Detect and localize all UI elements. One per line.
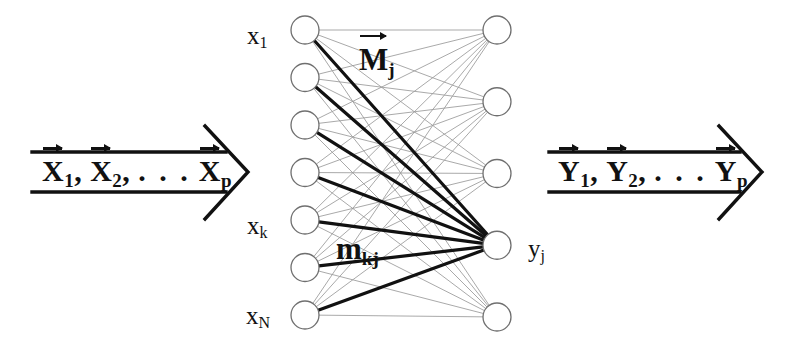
input-node[interactable] <box>291 16 319 44</box>
mesh-edge <box>319 271 484 314</box>
output-arrow-sub-3: p <box>737 170 748 191</box>
input-node-label-xk-text: x <box>247 212 260 239</box>
input-node[interactable] <box>291 254 319 282</box>
input-node[interactable] <box>291 301 319 329</box>
output-arrow-sep-1: , <box>590 154 598 187</box>
output-node-label-yj-sub: j <box>541 247 545 264</box>
input-arrow-symbol-3: X <box>199 154 221 187</box>
weight-vector-subscript: j <box>388 59 394 80</box>
vector-arrow-accent-Y2 <box>607 147 626 150</box>
input-arrow-sub-1: 1 <box>64 170 74 191</box>
input-node[interactable] <box>291 111 319 139</box>
output-node-label-yj-text: y <box>528 235 541 262</box>
output-node[interactable] <box>483 303 511 331</box>
output-arrow-symbol-2: Y <box>606 154 628 187</box>
figure-canvas: x1 xk xN yj Mj mkj X1, X2, . . . Xp Y1, … <box>0 0 800 351</box>
output-node-label-yj: yj <box>528 236 545 261</box>
weight-vector-symbol: M <box>359 42 388 77</box>
input-arrow-symbol-1: X <box>42 154 64 187</box>
vector-arrow-accent-X1 <box>43 147 62 150</box>
output-arrow-sub-1: 1 <box>580 170 590 191</box>
vector-arrow-accent-Xp <box>200 147 219 150</box>
input-arrow-sep-2: , <box>122 154 130 187</box>
input-node[interactable] <box>291 64 319 92</box>
input-node-label-x1: x1 <box>247 23 268 48</box>
input-node-label-x1-sub: 1 <box>260 34 268 51</box>
weight-scalar-subscript: kj <box>362 248 379 269</box>
input-arrow-label: X1, X2, . . . Xp <box>42 156 232 186</box>
output-node[interactable] <box>483 16 511 44</box>
output-arrow-sep-2: , <box>638 154 646 187</box>
input-node-label-x1-text: x <box>247 22 260 49</box>
vector-arrow-accent-X2 <box>91 147 110 150</box>
mesh-edge-group <box>313 30 489 317</box>
input-node-label-xk-sub: k <box>260 224 268 241</box>
output-node-group <box>483 16 511 331</box>
input-node-label-xN-text: x <box>246 302 259 329</box>
input-node[interactable] <box>291 206 319 234</box>
output-arrow-symbol-3: Y <box>715 154 737 187</box>
input-node-label-xN: xN <box>246 303 270 328</box>
vector-arrow-accent-M <box>360 35 386 38</box>
weight-scalar-label: mkj <box>336 233 379 264</box>
weight-scalar-symbol: m <box>336 231 362 266</box>
input-arrow-sep-1: , <box>74 154 82 187</box>
output-node[interactable] <box>483 88 511 116</box>
highlighted-edge-group <box>314 40 487 310</box>
output-arrow-sub-2: 2 <box>628 170 638 191</box>
output-arrow-ellipsis: . . . <box>654 154 707 187</box>
vector-arrow-accent-Y1 <box>559 147 578 150</box>
input-node[interactable] <box>291 159 319 187</box>
input-arrow-ellipsis: . . . <box>138 154 191 187</box>
mesh-edge <box>318 35 484 97</box>
weight-vector-label: Mj <box>359 44 395 75</box>
mesh-edge <box>319 103 483 123</box>
mesh-edge <box>319 315 483 317</box>
input-arrow-sub-2: 2 <box>112 170 122 191</box>
highlighted-edge <box>314 40 487 234</box>
vector-arrow-accent-Yp <box>716 147 735 150</box>
input-node-group <box>291 16 319 329</box>
output-arrow-symbol-1: Y <box>558 154 580 187</box>
output-node[interactable] <box>483 231 511 259</box>
input-node-label-xN-sub: N <box>259 314 271 331</box>
input-arrow-sub-3: p <box>221 170 232 191</box>
output-node[interactable] <box>483 160 511 188</box>
input-arrow-symbol-2: X <box>90 154 112 187</box>
output-arrow-label: Y1, Y2, . . . Yp <box>558 156 748 186</box>
input-node-label-xk: xk <box>247 213 268 238</box>
